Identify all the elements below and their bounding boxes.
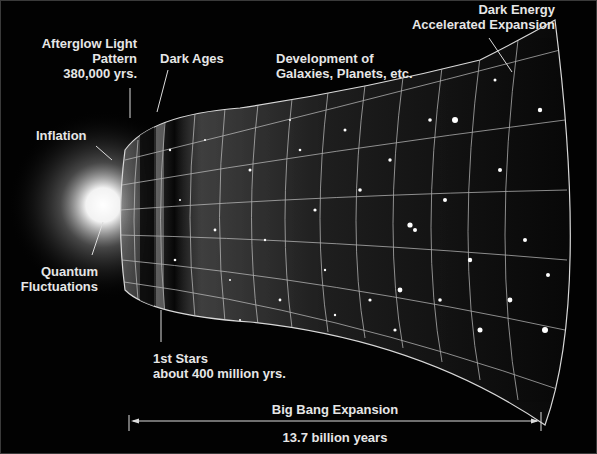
label-dark-energy-line1: Dark Energy xyxy=(400,2,555,17)
label-afterglow-line3: 380,000 yrs. xyxy=(27,66,137,81)
label-afterglow-line2: Pattern xyxy=(27,51,137,66)
label-big-bang-expansion: Big Bang Expansion xyxy=(129,402,541,417)
label-dark-energy-line2: Accelerated Expansion xyxy=(400,17,555,32)
label-development-line1: Development of xyxy=(276,51,413,66)
label-dark-energy: Dark Energy Accelerated Expansion xyxy=(400,2,555,32)
label-quantum-line2: Fluctuations xyxy=(20,279,98,294)
label-development: Development of Galaxies, Planets, etc. xyxy=(276,51,413,81)
label-development-line2: Galaxies, Planets, etc. xyxy=(276,66,413,81)
label-quantum-fluctuations: Quantum Fluctuations xyxy=(20,264,98,294)
label-afterglow-line1: Afterglow Light xyxy=(27,36,137,51)
label-first-stars-line1: 1st Stars xyxy=(153,351,286,366)
label-first-stars-line2: about 400 million yrs. xyxy=(153,366,286,381)
label-dark-ages: Dark Ages xyxy=(160,51,224,66)
label-inflation: Inflation xyxy=(36,128,87,143)
label-quantum-line1: Quantum xyxy=(20,264,98,279)
label-first-stars: 1st Stars about 400 million yrs. xyxy=(153,351,286,381)
label-afterglow: Afterglow Light Pattern 380,000 yrs. xyxy=(27,36,137,81)
universe-timeline-diagram: Afterglow Light Pattern 380,000 yrs. Dar… xyxy=(0,0,597,454)
label-duration: 13.7 billion years xyxy=(129,430,541,445)
